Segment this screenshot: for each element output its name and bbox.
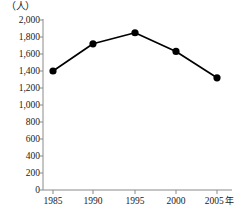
x-axis-tick-labels: 19851990199520002005年	[0, 0, 245, 214]
x-axis-tick-value: 1985	[44, 196, 63, 206]
x-axis-tick-label: 1990	[84, 196, 103, 207]
x-axis-unit-suffix: 年	[225, 196, 234, 206]
x-axis-tick-label: 2000	[167, 196, 186, 207]
line-chart: （人） 2,0001,8001,6001,4001,2001,000800600…	[0, 0, 245, 214]
x-axis-tick-label: 1985	[44, 196, 63, 207]
x-axis-tick-value: 2000	[167, 196, 186, 206]
x-axis-tick-value: 2005	[205, 196, 224, 206]
x-axis-tick-value: 1990	[84, 196, 103, 206]
x-axis-tick-label: 1995	[126, 196, 145, 207]
x-axis-tick-value: 1995	[126, 196, 145, 206]
x-axis-tick-label: 2005年	[205, 196, 234, 207]
